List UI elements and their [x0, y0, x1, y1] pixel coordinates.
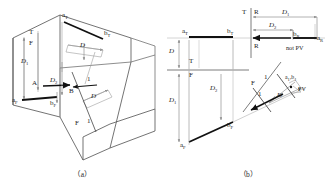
fig-a-label-view-1-lower: 1: [87, 118, 91, 125]
fig-a-label-d-aux: D: [91, 93, 96, 100]
figure-container: aT bT aF bF A B T F F 1 1 D1 D2 D D （a）: [0, 0, 331, 190]
fig-a-label-d2: D2: [50, 77, 57, 86]
fig-b-label-b-top: bT: [227, 28, 233, 37]
fig-b-label-d1-top: D1: [282, 9, 289, 18]
aux-projection-ray: [233, 88, 305, 122]
fig-a-label-d-top: D: [80, 42, 85, 49]
fig-b-label-ab-aux: a1,b1: [285, 75, 297, 83]
fig-b-label-d2-mid: D2: [210, 85, 217, 94]
fig-a-label-b-top: bT: [104, 30, 110, 39]
fig-a-label-view-f-upper: F: [29, 40, 33, 47]
fig-b-label-not-pv: not PV: [286, 45, 303, 51]
fig-b-label-fold-f-left: F: [189, 72, 193, 79]
figure-b-caption: （b）: [165, 168, 331, 179]
figure-b: T R R D1 D2 bR aR not PV aT bT D T F D1 …: [165, 0, 331, 190]
figure-b-drawing: [165, 0, 331, 190]
aux-point-ab: [290, 86, 292, 88]
fig-a-label-point-a: A: [32, 80, 37, 87]
fig-b-label-fold-t-left: T: [189, 58, 193, 65]
fig-b-label-fold-1-lower: 1: [258, 91, 262, 98]
fig-b-label-a-front: aF: [180, 142, 186, 151]
fig-b-label-d1-left: D1: [169, 97, 176, 106]
fig-b-label-a-right: aR: [317, 35, 323, 44]
fig-b-label-fold-r-upper: R: [254, 9, 259, 16]
fig-b-label-pv: PV: [298, 86, 306, 92]
line-ab-top-view: [64, 22, 103, 39]
fig-b-label-d2-top: D2: [269, 22, 276, 31]
fig-b-label-b-right: bR: [293, 31, 300, 40]
fig-a-label-view-1-upper: 1: [87, 76, 91, 83]
solid-wedge-outline: [13, 15, 155, 160]
fig-a-label-d1: D1: [21, 58, 28, 67]
figure-a: aT bT aF bF A B T F F 1 1 D1 D2 D D （a）: [0, 0, 165, 190]
fig-a-label-view-f-lower: F: [75, 120, 79, 127]
fig-b-label-d-left: D: [169, 48, 174, 55]
fig-b-label-fold-r-lower: R: [254, 43, 259, 50]
fig-b-label-d-aux: D: [277, 92, 282, 99]
fig-b-label-a-top: aT: [182, 28, 188, 37]
fig-a-label-point-b: B: [69, 88, 74, 95]
fig-a-label-a-front: aF: [12, 97, 18, 106]
fig-b-label-fold-f-aux: F: [251, 80, 255, 87]
figure-a-caption: （a）: [0, 168, 165, 179]
fig-b-label-fold-1-upper: 1: [264, 74, 268, 81]
upper-dimension-arrows: [253, 17, 317, 40]
fold-lines: [167, 8, 281, 112]
fig-b-label-fold-t-upper: T: [242, 9, 246, 16]
fig-b-label-b-front: bF: [227, 122, 233, 131]
figure-a-drawing: [0, 0, 165, 190]
fig-a-label-view-t: T: [29, 29, 33, 36]
fig-a-label-b-front: bF: [50, 100, 56, 109]
fig-a-label-a-top: aT: [62, 12, 68, 21]
